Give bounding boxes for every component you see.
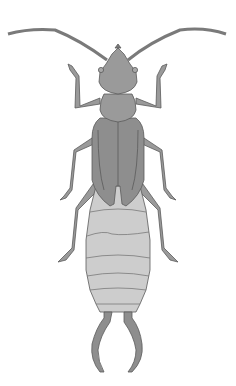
earwig-illustration: [0, 0, 236, 386]
eye-right: [132, 67, 137, 72]
eye-left: [98, 67, 103, 72]
pincers: [92, 312, 143, 372]
mouthparts: [115, 44, 121, 48]
head: [99, 48, 137, 94]
illustration-stage: earwig: [0, 0, 236, 386]
abdomen: [86, 186, 150, 312]
pronotum: [100, 94, 136, 122]
